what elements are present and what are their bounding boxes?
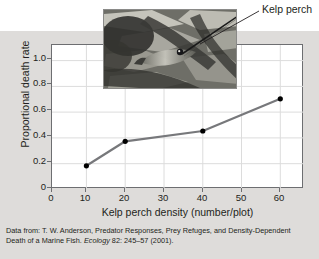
- callout-leader-line: [0, 0, 319, 259]
- caption-line-2-part1: Death of a Marine Fish.: [6, 236, 84, 245]
- caption-line-2-part2: 82: 245–57 (2001).: [110, 236, 174, 245]
- figure-caption: Data from: T. W. Anderson, Predator Resp…: [6, 226, 313, 245]
- caption-line-2: Death of a Marine Fish. Ecology 82: 245–…: [6, 236, 313, 246]
- figure-container: 1.0 0.8 0.6 0.4 0.2 0 Proportional death…: [0, 0, 319, 259]
- caption-journal-name: Ecology: [84, 236, 110, 245]
- callout-label-kelp-perch: Kelp perch: [262, 3, 312, 15]
- caption-line-1: Data from: T. W. Anderson, Predator Resp…: [6, 226, 313, 236]
